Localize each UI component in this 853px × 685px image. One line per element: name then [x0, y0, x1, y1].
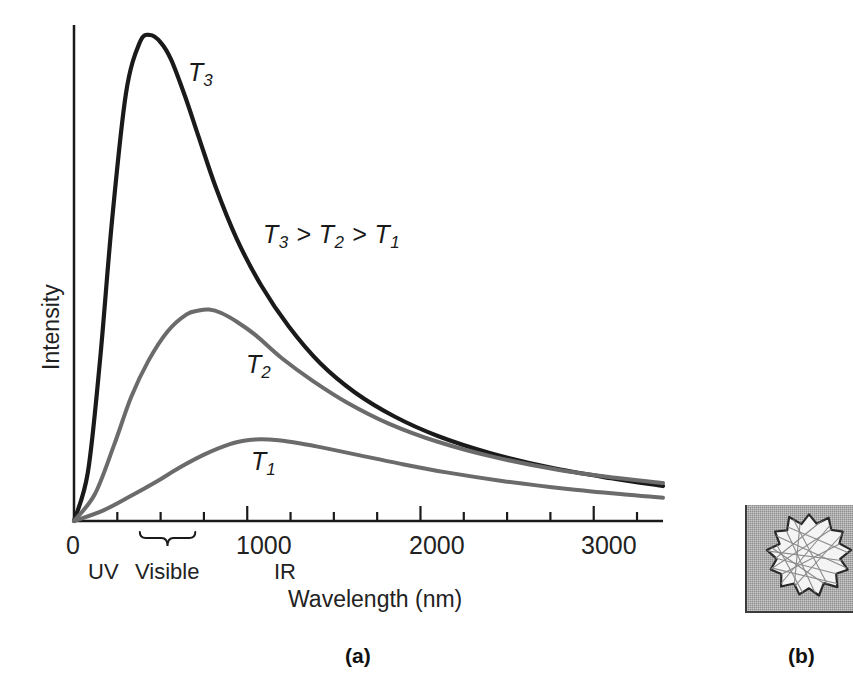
curve-label-t3-sub: 3: [203, 71, 212, 90]
panel-caption-b: (b): [788, 645, 815, 666]
y-axis-title: Intensity: [40, 284, 63, 370]
ineq-t2-sub: 2: [335, 233, 345, 252]
x-tick-label-0: 0: [66, 533, 80, 558]
region-label-ir: IR: [274, 561, 296, 583]
ineq-gt-1: >: [296, 220, 319, 248]
x-axis-title: Wavelength (nm): [288, 588, 462, 611]
ineq-t3: T: [263, 220, 279, 248]
ineq-gt-2: >: [352, 220, 375, 248]
ineq-t1: T: [375, 220, 391, 248]
curve-label-t2-text: T: [246, 350, 261, 378]
region-label-uv: UV: [88, 561, 119, 583]
curve-label-t2: T2: [246, 352, 271, 381]
curve-label-t3: T3: [188, 60, 213, 89]
x-tick-label-2000: 2000: [409, 533, 465, 558]
visible-range-brace: [140, 532, 196, 546]
curve-label-t1-sub: 1: [266, 460, 275, 479]
x-tick-label-3000: 3000: [581, 533, 637, 558]
curve-label-t3-text: T: [188, 58, 203, 86]
curve-label-t1-text: T: [251, 447, 266, 475]
ineq-t1-sub: 1: [390, 233, 400, 252]
blackbody-curves: [74, 35, 663, 521]
curve-t3: [74, 35, 663, 521]
temperature-inequality-annotation: T3 > T2 > T1: [263, 222, 400, 251]
curve-label-t1: T1: [251, 449, 276, 478]
crystal-grain-diagram: [745, 505, 853, 613]
curve-t1: [74, 439, 663, 521]
x-tick-label-1000: 1000: [236, 533, 292, 558]
curve-label-t2-sub: 2: [261, 363, 270, 382]
panel-caption-a: (a): [345, 645, 371, 666]
ineq-t3-sub: 3: [279, 233, 289, 252]
region-label-visible: Visible: [135, 561, 199, 583]
x-axis-ticks: [117, 506, 637, 521]
ineq-t2: T: [319, 220, 335, 248]
